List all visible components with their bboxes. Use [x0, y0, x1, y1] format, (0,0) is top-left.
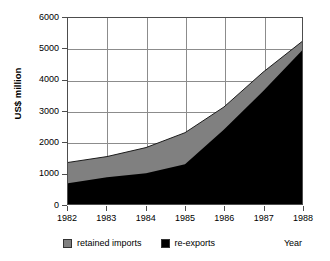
y-axis-tick-label: 2000: [39, 138, 59, 147]
x-axis-tick-label: 1983: [86, 213, 126, 223]
x-axis-tick-label: 1987: [244, 213, 284, 223]
chart-legend: retained importsre-exports: [63, 236, 227, 250]
chart-figure: US$ million 0100020003000400050006000 19…: [0, 0, 330, 261]
stacked-area-series: [68, 18, 302, 204]
x-axis-tick-label: 1986: [204, 213, 244, 223]
y-axis-tick-label: 6000: [39, 13, 59, 22]
y-axis-title: US$ million: [12, 46, 23, 142]
x-axis-tick-label: 1982: [47, 213, 87, 223]
x-axis-tick-mark: [106, 206, 107, 211]
x-axis-tick-label: 1988: [283, 213, 323, 223]
legend-swatch-icon: [161, 239, 170, 248]
y-axis-tick-label: 0: [54, 201, 59, 210]
x-axis-tick-mark: [224, 206, 225, 211]
x-axis-tick-label: 1985: [165, 213, 205, 223]
x-axis-tick-label: 1984: [126, 213, 166, 223]
y-axis-tick-label: 1000: [39, 169, 59, 178]
legend-item: re-exports: [161, 238, 216, 248]
x-axis-tick-mark: [264, 206, 265, 211]
y-axis-tick-label: 4000: [39, 75, 59, 84]
legend-label: re-exports: [175, 238, 216, 248]
legend-label: retained imports: [77, 238, 142, 248]
x-axis-tick-mark: [303, 206, 304, 211]
y-axis-tick-label: 3000: [39, 107, 59, 116]
x-axis-tick-mark: [185, 206, 186, 211]
x-axis-title: Year: [268, 238, 318, 248]
y-axis-tick-label: 5000: [39, 44, 59, 53]
legend-swatch-icon: [63, 239, 72, 248]
plot-area: [67, 17, 303, 205]
x-axis-tick-mark: [67, 206, 68, 211]
legend-item: retained imports: [63, 238, 142, 248]
x-axis-tick-mark: [146, 206, 147, 211]
